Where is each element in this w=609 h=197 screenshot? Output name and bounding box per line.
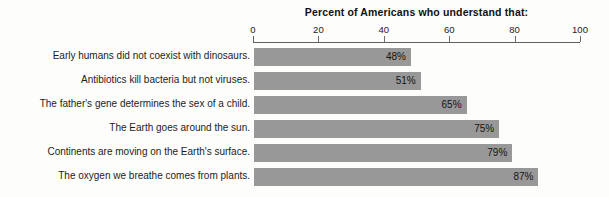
bar-row: The oxygen we breathe comes from plants.…	[0, 166, 609, 190]
bar-category-label: The oxygen we breathe comes from plants.	[58, 169, 250, 183]
bar: 65%	[254, 96, 467, 114]
bar-row: Early humans did not coexist with dinosa…	[0, 46, 609, 70]
bar-value-label: 51%	[396, 72, 416, 90]
x-axis-tick-label: 60	[444, 24, 455, 35]
bar-row: Continents are moving on the Earth's sur…	[0, 142, 609, 166]
bar: 51%	[254, 72, 421, 90]
bar: 48%	[254, 48, 411, 66]
chart-title: Percent of Americans who understand that…	[253, 6, 580, 18]
bar-chart: Percent of Americans who understand that…	[0, 0, 609, 197]
x-axis-tick-label: 20	[313, 24, 324, 35]
bar-category-label: The father's gene determines the sex of …	[40, 97, 250, 111]
bar-value-label: 75%	[474, 120, 494, 138]
bar-row: Antibiotics kill bacteria but not viruse…	[0, 70, 609, 94]
bar: 75%	[254, 120, 499, 138]
bar-row: The father's gene determines the sex of …	[0, 94, 609, 118]
x-axis-line	[253, 42, 580, 43]
x-axis-tick-label: 0	[250, 24, 255, 35]
bar-category-label: Antibiotics kill bacteria but not viruse…	[81, 73, 250, 87]
bar-category-label: The Earth goes around the sun.	[109, 121, 250, 135]
bar-category-label: Early humans did not coexist with dinosa…	[53, 49, 250, 63]
bar-value-label: 48%	[386, 48, 406, 66]
bar: 79%	[254, 144, 512, 162]
bar-value-label: 79%	[487, 144, 507, 162]
bar: 87%	[254, 168, 538, 186]
x-axis-tick-label: 40	[379, 24, 390, 35]
bar-row: The Earth goes around the sun.75%	[0, 118, 609, 142]
bar-value-label: 65%	[442, 96, 462, 114]
x-axis-origin-tick	[253, 36, 254, 43]
x-axis: 020406080100	[253, 24, 580, 44]
bar-category-label: Continents are moving on the Earth's sur…	[47, 145, 250, 159]
x-axis-tick-mark	[580, 36, 581, 42]
plot-area: Early humans did not coexist with dinosa…	[0, 46, 609, 194]
x-axis-tick-label: 80	[509, 24, 520, 35]
x-axis-tick-label: 100	[572, 24, 588, 35]
bar-value-label: 87%	[513, 168, 533, 186]
